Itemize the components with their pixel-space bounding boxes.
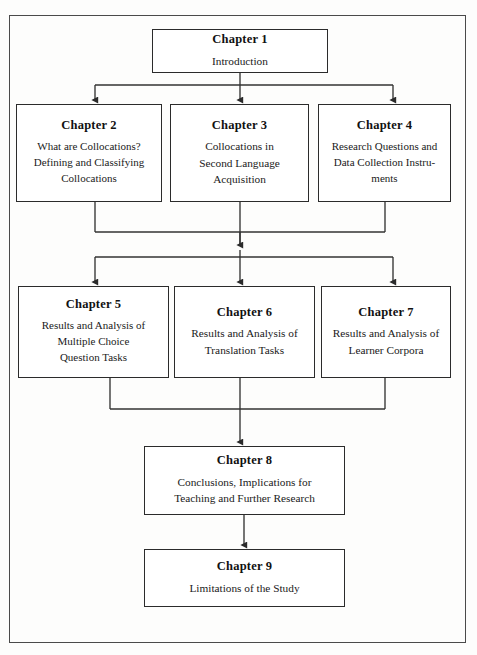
node-chapter-5-body: Results and Analysis of Multiple Choice … — [42, 318, 146, 366]
node-chapter-7-title: Chapter 7 — [358, 305, 413, 321]
node-chapter-2-title: Chapter 2 — [61, 118, 116, 134]
node-chapter-2-body: What are Collocations? Defining and Clas… — [34, 139, 145, 187]
node-chapter-1-title: Chapter 1 — [212, 32, 267, 48]
node-chapter-5[interactable]: Chapter 5 Results and Analysis of Multip… — [18, 286, 169, 378]
node-chapter-3-body: Collocations in Second Language Acquisit… — [199, 138, 280, 187]
node-chapter-8[interactable]: Chapter 8 Conclusions, Implications for … — [144, 446, 345, 515]
node-chapter-8-body: Conclusions, Implications for Teaching a… — [174, 474, 315, 507]
node-chapter-5-title: Chapter 5 — [66, 297, 121, 313]
node-chapter-7-body: Results and Analysis of Learner Corpora — [333, 325, 439, 358]
flowchart-diagram: Chapter 1 Introduction Chapter 2 What ar… — [0, 0, 477, 655]
node-chapter-1-body: Introduction — [212, 53, 268, 69]
node-chapter-1[interactable]: Chapter 1 Introduction — [152, 29, 328, 73]
node-chapter-6-title: Chapter 6 — [217, 305, 272, 321]
node-chapter-7[interactable]: Chapter 7 Results and Analysis of Learne… — [321, 286, 451, 378]
node-chapter-3[interactable]: Chapter 3 Collocations in Second Languag… — [170, 104, 309, 202]
node-chapter-8-title: Chapter 8 — [217, 453, 272, 469]
node-chapter-4-body: Research Questions and Data Collection I… — [332, 139, 438, 187]
node-chapter-9[interactable]: Chapter 9 Limitations of the Study — [144, 549, 345, 607]
node-chapter-9-body: Limitations of the Study — [189, 580, 299, 596]
node-chapter-3-title: Chapter 3 — [212, 118, 267, 134]
node-chapter-4-title: Chapter 4 — [357, 118, 412, 134]
node-chapter-6[interactable]: Chapter 6 Results and Analysis of Transl… — [174, 286, 315, 378]
node-chapter-6-body: Results and Analysis of Translation Task… — [191, 325, 297, 358]
node-chapter-9-title: Chapter 9 — [217, 559, 272, 575]
node-chapter-4[interactable]: Chapter 4 Research Questions and Data Co… — [318, 104, 451, 202]
node-chapter-2[interactable]: Chapter 2 What are Collocations? Definin… — [16, 104, 162, 202]
